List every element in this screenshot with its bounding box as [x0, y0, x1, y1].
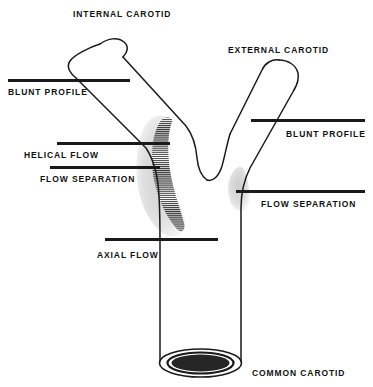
label-flow-separation-external: FLOW SEPARATION — [261, 199, 356, 209]
label-external-carotid: EXTERNAL CAROTID — [228, 45, 329, 55]
label-common-carotid: COMMON CAROTID — [252, 368, 345, 378]
label-helical-flow: HELICAL FLOW — [24, 150, 99, 160]
internal-carotid-outline — [68, 39, 207, 362]
bifurcation-apex-outline — [207, 134, 230, 180]
label-internal-carotid: INTERNAL CAROTID — [73, 9, 171, 19]
leader-line-flow-separation-internal — [50, 166, 160, 169]
leader-line-blunt-profile-internal — [8, 79, 130, 82]
leader-line-blunt-profile-external — [251, 119, 365, 122]
lumen-disc — [172, 355, 230, 372]
carotid-flow-diagram: INTERNAL CAROTID EXTERNAL CAROTID COMMON… — [0, 0, 373, 387]
leader-line-axial-flow — [105, 238, 218, 241]
vessel-illustration — [0, 0, 373, 387]
label-axial-flow: AXIAL FLOW — [97, 250, 159, 260]
label-blunt-profile-external: BLUNT PROFILE — [286, 129, 366, 139]
leader-line-helical-flow — [57, 142, 170, 145]
flow-separation-shading-external — [228, 166, 250, 211]
common-carotid-end — [160, 349, 242, 377]
external-carotid-outline — [230, 60, 298, 362]
label-flow-separation-internal: FLOW SEPARATION — [40, 174, 135, 184]
label-blunt-profile-internal: BLUNT PROFILE — [8, 87, 88, 97]
leader-line-flow-separation-external — [236, 190, 365, 193]
